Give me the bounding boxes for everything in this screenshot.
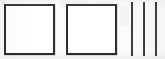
scanned-document-canvas [0, 0, 165, 59]
checkbox-1[interactable] [4, 4, 55, 55]
checkbox-2-mark [68, 6, 115, 53]
tally-mark-1 [131, 2, 133, 56]
tally-mark-3 [155, 2, 157, 56]
tally-mark-2 [143, 2, 145, 56]
checkbox-2[interactable] [66, 4, 117, 55]
checkbox-1-mark [6, 6, 53, 53]
ghost-mark [120, 6, 129, 26]
